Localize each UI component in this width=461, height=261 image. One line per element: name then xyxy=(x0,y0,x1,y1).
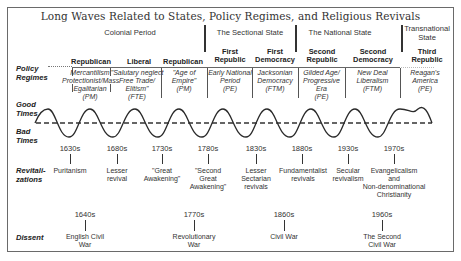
revitalization-decade: 1630s xyxy=(54,144,86,153)
revitalization-tick xyxy=(162,154,163,164)
revitalization-event: "SecondGreatAwakening" xyxy=(184,167,232,191)
dissent-decade: 1960s xyxy=(366,210,398,219)
revitalization-tick xyxy=(302,154,303,164)
long-wave-curve xyxy=(35,107,432,137)
long-wave-chart xyxy=(0,0,461,261)
dissent-tick xyxy=(194,220,195,231)
revitalization-decade: 1880s xyxy=(286,144,318,153)
revitalization-event: EvangelicalismandNon-denominationalChris… xyxy=(362,167,426,199)
dissent-event: Civil War xyxy=(260,233,308,241)
revitalization-tick xyxy=(70,154,71,164)
revitalization-decade: 1780s xyxy=(192,144,224,153)
revitalization-event: LesserSectarianrevivals xyxy=(232,167,280,191)
dissent-decade: 1770s xyxy=(178,210,210,219)
revitalization-decade: 1830s xyxy=(240,144,272,153)
revitalization-decade: 1930s xyxy=(332,144,364,153)
dissent-decade: 1860s xyxy=(268,210,300,219)
revitalization-event: "GreatAwakening" xyxy=(138,167,186,183)
revitalization-event: Lesserrevival xyxy=(95,167,139,183)
dissent-event: RevolutionaryWar xyxy=(168,233,220,249)
revitalization-event: Puritanism xyxy=(46,167,94,175)
dissent-decade: 1640s xyxy=(69,210,101,219)
revitalization-tick xyxy=(348,154,349,164)
revitalization-tick xyxy=(394,154,395,164)
revitalization-tick xyxy=(208,154,209,164)
revitalization-tick xyxy=(117,154,118,164)
revitalization-event: Fundamentalistrevivals xyxy=(276,167,330,183)
dissent-tick xyxy=(284,220,285,231)
revitalization-decade: 1680s xyxy=(101,144,133,153)
revitalization-tick xyxy=(256,154,257,164)
revitalization-decade: 1970s xyxy=(378,144,410,153)
revitalization-decade: 1730s xyxy=(146,144,178,153)
dissent-event: English CivilWar xyxy=(61,233,109,249)
dissent-event: The SecondCivil War xyxy=(356,233,408,249)
dissent-tick xyxy=(382,220,383,231)
dissent-tick xyxy=(85,220,86,231)
